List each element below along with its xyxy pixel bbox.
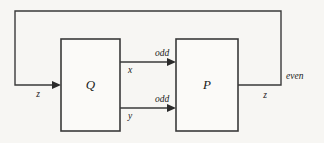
arrowhead-lower-into-p: [167, 104, 176, 112]
edge-label-input-z: z: [35, 89, 40, 99]
edge-variable-x: x: [127, 65, 133, 75]
diagram-canvas: Q P z odd x odd y even z: [0, 0, 324, 143]
node-q-label: Q: [86, 77, 96, 92]
node-p[interactable]: P: [176, 39, 238, 131]
arrowhead-upper-into-p: [167, 58, 176, 66]
feedback-loop-wire: [15, 11, 281, 89]
feedback-path: [15, 11, 281, 85]
arrowhead-into-q: [52, 81, 61, 89]
node-p-label: P: [202, 77, 211, 92]
edge-variable-y: y: [127, 111, 133, 121]
edge-label-odd-upper: odd: [155, 48, 170, 58]
edge-variable-z-output: z: [262, 90, 267, 100]
block-diagram-svg: Q P z odd x odd y even z: [0, 0, 324, 143]
node-q[interactable]: Q: [61, 39, 120, 131]
edge-label-even: even: [286, 71, 304, 81]
edge-label-odd-lower: odd: [155, 94, 170, 104]
